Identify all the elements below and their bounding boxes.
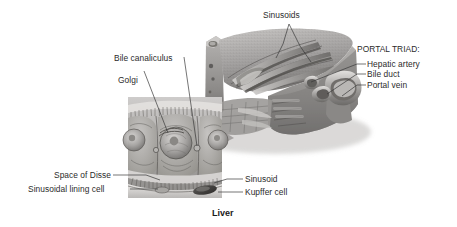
hepatocyte-detail-inset (123, 97, 228, 198)
label-space-of-disse: Space of Disse (54, 170, 111, 180)
label-portal-vein: Portal vein (367, 80, 407, 90)
figure-root: Sinusoids PORTAL TRIAD: Hepatic artery B… (0, 0, 457, 227)
label-kupffer-cell: Kupffer cell (245, 187, 287, 197)
label-golgi: Golgi (118, 75, 138, 85)
label-bile-duct: Bile duct (367, 69, 400, 79)
label-portal-triad-heading: PORTAL TRIAD: (357, 44, 420, 54)
label-bile-canaliculus: Bile canaliculus (114, 53, 173, 63)
label-sinusoids: Sinusoids (263, 10, 300, 20)
figure-caption: Liver (212, 208, 234, 218)
label-sinusoid: Sinusoid (245, 174, 278, 184)
label-hepatic-artery: Hepatic artery (367, 59, 420, 69)
label-sinusoidal-lining-cell: Sinusoidal lining cell (28, 184, 105, 194)
